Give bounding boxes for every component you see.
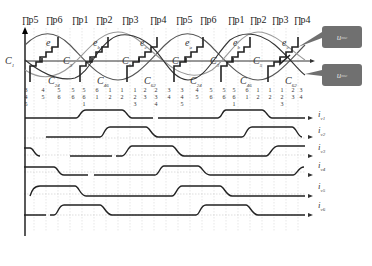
pulse-label: ∏p1	[72, 14, 88, 25]
current-iv5	[30, 186, 305, 196]
conduction-column: 56	[69, 87, 77, 101]
capacitor-upper-label: C3	[210, 55, 219, 68]
current-baselines	[24, 138, 305, 215]
axis-arrow-icon	[22, 27, 28, 34]
conduction-column: 56	[55, 87, 63, 101]
phase-voltage-label: eb	[93, 37, 100, 50]
phase-voltage-label: ea	[46, 37, 53, 50]
conduction-column: 123	[278, 87, 286, 108]
conduction-column: 12	[254, 87, 262, 101]
axis-arrow-right-icon	[310, 59, 315, 63]
current-iv1	[25, 110, 305, 118]
conduction-column: 234	[152, 87, 160, 108]
current-arrow-icons	[308, 116, 313, 217]
conduction-column: 345	[22, 87, 30, 108]
figure-caption	[110, 246, 270, 252]
callout-upper: umc	[322, 26, 362, 48]
conduction-column: 123	[131, 87, 139, 108]
conduction-column: 12	[266, 87, 274, 101]
current-iv3	[24, 146, 305, 156]
conduction-column: 61	[93, 87, 101, 101]
conduction-column: 23	[289, 87, 297, 101]
capacitor-upper-label: C1	[172, 55, 181, 68]
pulse-label: ∏p5	[176, 14, 192, 25]
callout-pointer-upper	[298, 32, 322, 47]
conduction-column: 34	[297, 87, 305, 101]
conduction-column: 561	[230, 87, 238, 108]
pulse-label: ∏p1	[228, 14, 244, 25]
phase-currents	[24, 110, 305, 215]
phase-voltage-label: eb	[233, 37, 240, 50]
phase-voltage-label: ea	[185, 37, 192, 50]
conduction-column: 56	[220, 87, 228, 101]
current-iv2	[46, 127, 302, 137]
pulse-label: ∏p2	[96, 14, 112, 25]
conduction-column: 45	[39, 87, 47, 101]
conduction-column: 34	[165, 87, 173, 101]
phase-voltage-label: ec	[282, 37, 289, 50]
pulse-label: ∏p6	[46, 14, 62, 25]
current-label-v2: iv2	[318, 125, 325, 137]
conduction-column: 56	[207, 87, 215, 101]
pulse-label: ∏p5	[22, 14, 38, 25]
pulse-label: ∏p2	[250, 14, 266, 25]
pulse-label: ∏p3	[272, 14, 288, 25]
capacitor-upper-label: C3	[63, 55, 72, 68]
current-iv6	[24, 205, 305, 215]
conduction-column: 345	[178, 87, 186, 108]
capacitor-upper-label: C5	[122, 55, 131, 68]
capacitor-upper-label: C5	[253, 55, 262, 68]
callout-lower: umc	[322, 64, 362, 86]
pulse-label: ∏p4	[294, 14, 310, 25]
conduction-column: 61	[243, 87, 251, 101]
current-label-v5: iv5	[318, 181, 325, 193]
callout-pointer-lower	[305, 70, 322, 76]
current-label-v3: iv3	[318, 142, 325, 154]
phase-voltage-label: ec	[140, 37, 147, 50]
conduction-column: 561	[80, 87, 88, 108]
pulse-label: ∏p3	[122, 14, 138, 25]
pulse-label: ∏p6	[200, 14, 216, 25]
conduction-column: 23	[141, 87, 149, 101]
pulse-label: ∏p4	[150, 14, 166, 25]
current-label-v4: iv4	[318, 160, 325, 172]
conduction-column: 12	[118, 87, 126, 101]
current-label-v6: iv6	[318, 200, 325, 212]
conduction-column: 12	[106, 87, 114, 101]
conduction-column: 45	[193, 87, 201, 101]
current-label-v1: iv1	[318, 109, 325, 121]
capacitor-upper-label: C1	[5, 55, 14, 68]
